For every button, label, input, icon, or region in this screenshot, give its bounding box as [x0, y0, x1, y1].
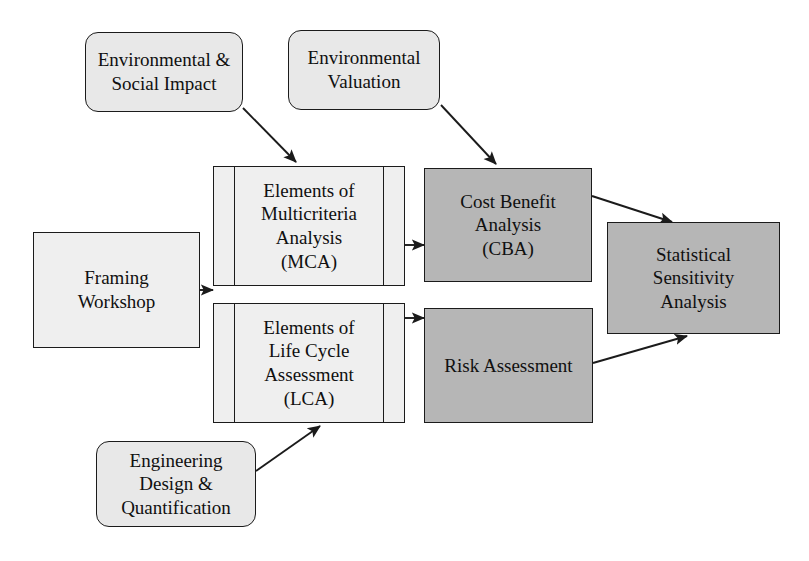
- edge-risk-to-ssa: [593, 336, 687, 363]
- node-label: Elements of Life Cycle Assessment (LCA): [259, 316, 358, 410]
- edge-engineering-to-lca: [256, 426, 320, 471]
- node-label: Environmental Valuation: [304, 46, 425, 93]
- node-statistical-sensitivity-analysis[interactable]: Statistical Sensitivity Analysis: [607, 222, 780, 334]
- node-risk-assessment[interactable]: Risk Assessment: [424, 308, 593, 423]
- edge-ev-to-cba: [441, 105, 496, 164]
- node-label: Elements of Multicriteria Analysis (MCA): [257, 179, 361, 273]
- edge-cba-to-ssa: [592, 196, 672, 222]
- flowchart-canvas: Environmental & Social Impact Environmen…: [0, 0, 809, 561]
- process-rule-right: [383, 304, 384, 422]
- node-elements-of-mca[interactable]: Elements of Multicriteria Analysis (MCA): [213, 166, 405, 286]
- node-environmental-social-impact[interactable]: Environmental & Social Impact: [85, 32, 243, 112]
- node-cost-benefit-analysis[interactable]: Cost Benefit Analysis (CBA): [424, 168, 592, 282]
- node-label: Engineering Design & Quantification: [117, 449, 235, 520]
- node-elements-of-lca[interactable]: Elements of Life Cycle Assessment (LCA): [213, 303, 405, 423]
- node-framing-workshop[interactable]: Framing Workshop: [33, 232, 200, 348]
- node-label: Risk Assessment: [440, 354, 576, 378]
- node-label: Statistical Sensitivity Analysis: [649, 243, 738, 314]
- process-rule-right: [383, 167, 384, 285]
- node-label: Cost Benefit Analysis (CBA): [456, 190, 560, 261]
- edge-esi-to-mca: [243, 108, 296, 162]
- node-label: Environmental & Social Impact: [94, 48, 234, 95]
- process-rule-left: [234, 304, 235, 422]
- node-environmental-valuation[interactable]: Environmental Valuation: [288, 30, 440, 110]
- node-engineering-design-quantification[interactable]: Engineering Design & Quantification: [96, 441, 256, 527]
- node-label: Framing Workshop: [74, 266, 160, 313]
- process-rule-left: [234, 167, 235, 285]
